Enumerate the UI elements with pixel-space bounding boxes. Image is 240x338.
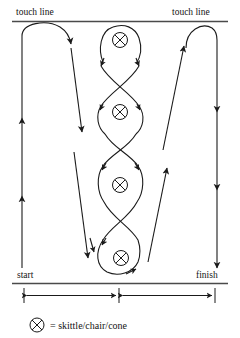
lobe-right-3 — [137, 166, 143, 202]
left-center-path-down — [71, 48, 88, 258]
right-center-path-up — [148, 46, 184, 262]
dimension-left-segment — [24, 288, 119, 303]
legend: = skittle/chair/cone — [30, 318, 128, 332]
legend-label: = skittle/chair/cone — [50, 320, 128, 331]
central-slalom-path — [90, 25, 143, 274]
right-outer-path-down — [186, 26, 217, 268]
left-outer-path-up — [22, 23, 71, 268]
lobe-left-2 — [98, 106, 105, 134]
cross-seg-a1 — [101, 66, 139, 106]
start-label: start — [17, 270, 34, 280]
cone-symbol-icon — [30, 318, 44, 332]
drill-diagram: touch line touch line — [0, 0, 240, 338]
drill-diagram-svg: touch line touch line — [0, 0, 240, 338]
cone-4 — [114, 251, 129, 266]
cone-1 — [113, 33, 128, 48]
touch-line-left-label: touch line — [16, 7, 54, 17]
touch-line-right-label: touch line — [172, 7, 210, 17]
finish-label: finish — [196, 270, 218, 280]
cone-3 — [113, 178, 128, 193]
cross-seg-b1 — [101, 66, 139, 106]
dimension-right-segment — [123, 288, 215, 303]
lobe-left-3 — [98, 166, 104, 202]
cone-2 — [113, 105, 128, 120]
